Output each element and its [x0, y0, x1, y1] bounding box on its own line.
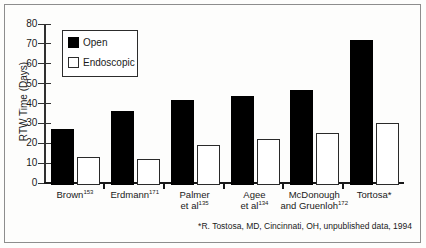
y-axis-tick-label: 80	[3, 19, 37, 29]
x-axis-label: Tortosa*	[330, 190, 418, 201]
y-axis-tick-label: 20	[3, 138, 37, 148]
bar-group	[225, 24, 285, 185]
legend-label-endoscopic: Endoscopic	[83, 57, 135, 68]
y-axis-labels: 01020304050607080	[0, 0, 37, 248]
y-axis-tick-label: 40	[3, 99, 37, 109]
y-axis-tick-label: 60	[3, 59, 37, 69]
bar-endoscopic	[316, 133, 339, 185]
legend-item-open: Open	[68, 37, 107, 48]
x-axis-separator-tick	[223, 182, 225, 189]
bar-endoscopic	[197, 145, 220, 185]
figure-container: RTW Time (Days) 01020304050607080 Brown1…	[0, 0, 426, 248]
y-axis-tick-label: 70	[3, 39, 37, 49]
y-axis-tick-label: 30	[3, 118, 37, 128]
legend-item-endoscopic: Endoscopic	[68, 57, 135, 68]
bar-open	[171, 100, 194, 185]
bar-open	[231, 96, 254, 185]
legend: Open Endoscopic	[62, 30, 138, 77]
bar-endoscopic	[257, 139, 280, 185]
bar-endoscopic	[137, 159, 160, 185]
y-axis-tick-label: 0	[3, 178, 37, 188]
y-axis-tick-label: 10	[3, 158, 37, 168]
y-axis-tick-label: 50	[3, 79, 37, 89]
legend-swatch-open	[68, 37, 79, 48]
bar-open	[290, 90, 313, 185]
bar-endoscopic	[77, 157, 100, 185]
bar-group	[344, 24, 404, 185]
x-axis-separator-tick	[342, 182, 344, 189]
bar-group	[165, 24, 225, 185]
bar-group	[284, 24, 344, 185]
x-axis-separator-tick	[103, 182, 105, 189]
legend-swatch-endoscopic	[68, 57, 79, 68]
legend-label-open: Open	[83, 37, 107, 48]
footnote: *R. Tostosa, MD, Cincinnati, OH, unpubli…	[198, 221, 412, 231]
bar-open	[51, 129, 74, 185]
bar-endoscopic	[376, 123, 399, 185]
bar-open	[350, 40, 373, 185]
bar-open	[111, 111, 134, 185]
x-axis-separator-tick	[163, 182, 165, 189]
x-axis-separator-tick	[282, 182, 284, 189]
